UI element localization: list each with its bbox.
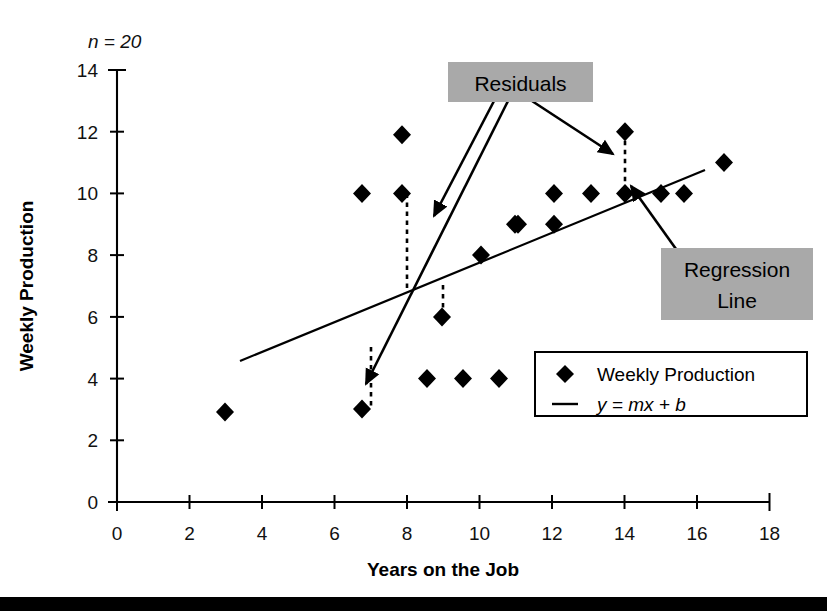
data-point bbox=[393, 125, 411, 144]
data-point bbox=[675, 184, 693, 203]
data-point bbox=[715, 153, 733, 172]
y-tick-label: 2 bbox=[87, 430, 98, 451]
data-point bbox=[616, 122, 634, 141]
data-point bbox=[472, 246, 490, 265]
x-axis-tick-labels: 0 2 4 6 8 10 12 14 16 18 bbox=[112, 523, 780, 544]
chart-figure: 14 12 10 8 6 4 2 0 0 2 4 6 8 10 12 14 16… bbox=[0, 0, 827, 611]
x-tick-label: 4 bbox=[257, 523, 268, 544]
data-point bbox=[216, 403, 234, 422]
data-point bbox=[652, 184, 670, 203]
y-axis-title: Weekly Production bbox=[16, 201, 37, 372]
y-tick-label: 12 bbox=[77, 122, 98, 143]
regression-line-callout-label-1: Regression bbox=[684, 258, 790, 281]
x-tick-label: 0 bbox=[112, 523, 123, 544]
y-tick-label: 8 bbox=[87, 245, 98, 266]
data-point bbox=[545, 215, 563, 234]
x-tick-label: 6 bbox=[329, 523, 340, 544]
legend-label-weekly-production[interactable]: Weekly Production bbox=[597, 364, 755, 385]
sample-size-label: n = 20 bbox=[88, 31, 142, 52]
x-tick-label: 10 bbox=[469, 523, 490, 544]
scatter-plot-svg: 14 12 10 8 6 4 2 0 0 2 4 6 8 10 12 14 16… bbox=[0, 0, 827, 611]
x-axis-title: Years on the Job bbox=[367, 559, 519, 580]
x-tick-label: 16 bbox=[686, 523, 707, 544]
residuals-callout: Residuals bbox=[448, 62, 593, 102]
data-point bbox=[506, 215, 524, 234]
regression-line bbox=[240, 170, 705, 361]
x-tick-label: 14 bbox=[614, 523, 636, 544]
regression-line-callout: Regression Line bbox=[661, 248, 813, 320]
residual-arrow bbox=[434, 101, 494, 216]
y-axis-tick-labels: 14 12 10 8 6 4 2 0 bbox=[77, 60, 99, 513]
y-tick-label: 0 bbox=[87, 492, 98, 513]
residual-arrow bbox=[366, 101, 508, 384]
y-tick-label: 14 bbox=[77, 60, 99, 81]
data-point bbox=[353, 184, 371, 203]
x-tick-label: 12 bbox=[541, 523, 562, 544]
footer-bar bbox=[0, 597, 827, 611]
data-point bbox=[454, 369, 472, 388]
data-point bbox=[393, 184, 411, 203]
y-tick-label: 10 bbox=[77, 183, 98, 204]
data-point bbox=[545, 184, 563, 203]
legend[interactable]: Weekly Production y = mx + b bbox=[535, 352, 807, 416]
data-point bbox=[433, 307, 451, 326]
legend-label-trendline[interactable]: y = mx + b bbox=[595, 394, 686, 415]
x-tick-label: 18 bbox=[759, 523, 780, 544]
y-tick-label: 4 bbox=[87, 369, 98, 390]
y-tick-label: 6 bbox=[87, 307, 98, 328]
data-point bbox=[353, 400, 371, 419]
data-point bbox=[582, 184, 600, 203]
residual-arrow bbox=[532, 101, 613, 154]
x-tick-label: 8 bbox=[402, 523, 413, 544]
callout-arrows bbox=[366, 101, 676, 384]
regression-line-arrow bbox=[631, 186, 676, 249]
x-tick-label: 2 bbox=[184, 523, 195, 544]
data-point bbox=[418, 369, 436, 388]
data-point bbox=[490, 369, 508, 388]
regression-line-callout-label-2: Line bbox=[717, 289, 757, 312]
residuals-callout-label: Residuals bbox=[474, 72, 566, 95]
